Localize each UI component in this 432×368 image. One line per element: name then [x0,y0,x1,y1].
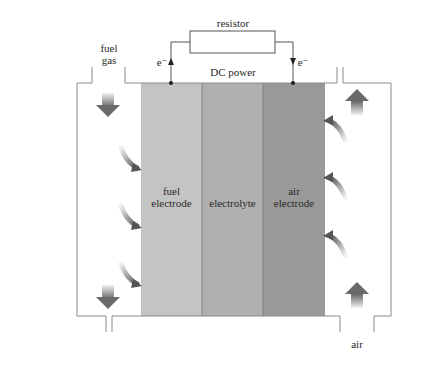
fuel-electrode-label: fuel electrode [141,185,202,209]
air-electrode-label: air electrode [263,185,325,209]
fuel-electrode-line1: fuel [141,185,202,197]
fuel-gas-label: fuel gas [93,42,125,66]
electron-right-label: e⁻ [296,56,310,68]
air-electrode-line1: air [263,185,325,197]
fuel-flow-down-arrow-icon [96,93,120,117]
electron-left-label: e⁻ [155,56,169,68]
air-label: air [345,338,369,350]
right-terminal [291,81,295,85]
air-electrode-line2: electrode [263,197,325,209]
air-exhaust-up-arrow-icon [345,89,369,115]
fuel-gas-line1: fuel [93,42,125,54]
fuel-electrode-line2: electrode [141,197,202,209]
fuel-cell-diagram [0,0,432,368]
electrolyte-label: electrolyte [202,197,263,209]
resistor-box [190,31,275,53]
resistor-label: resistor [210,17,256,29]
fuel-gas-line2: gas [93,54,125,66]
fuel-exhaust-down-arrow-icon [96,285,120,309]
air-diffusion-arrows [330,178,345,313]
dc-power-label: DC power [205,66,261,78]
air-inlet-up-arrow-icon [345,282,369,308]
left-terminal [169,81,173,85]
